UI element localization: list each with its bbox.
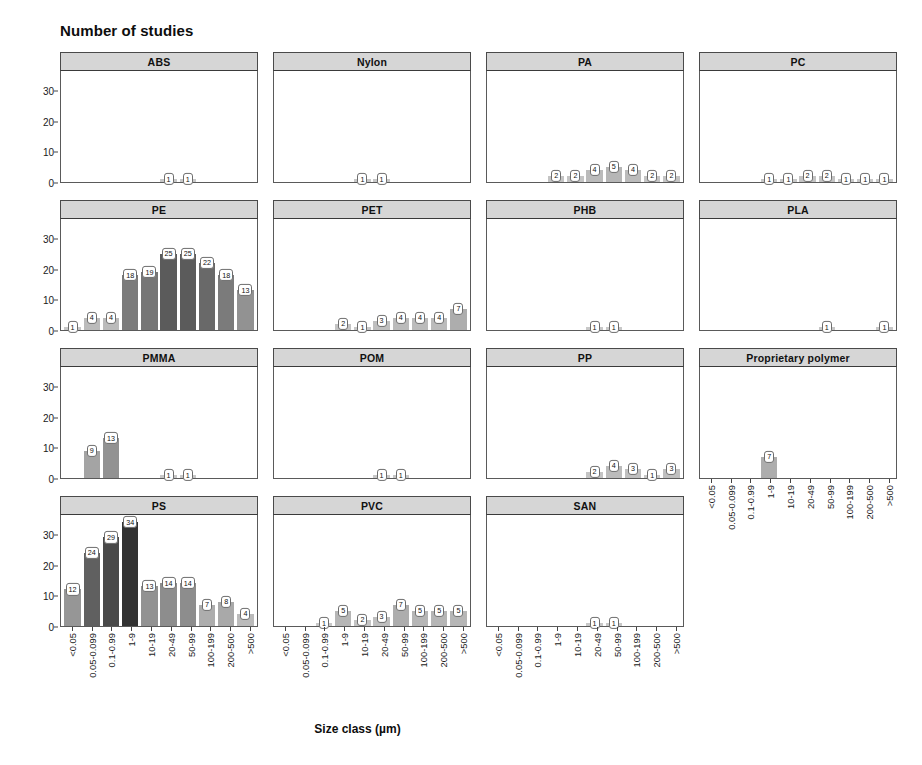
bar-slot (817, 367, 836, 478)
x-tick-mark (537, 627, 538, 631)
bar-value-label: 2 (357, 614, 367, 626)
bar: 2 (586, 472, 603, 478)
x-tick-label: 100-199 (205, 633, 216, 667)
y-axis: 0102030 (22, 71, 58, 183)
bar-slot: 4 (604, 367, 623, 478)
x-tick-mark (191, 627, 192, 631)
bar-series-pom: 11 (274, 367, 470, 478)
bar: 25 (180, 254, 197, 330)
x-tick-label: 1-9 (765, 485, 776, 499)
x-tick-label: 0.1-0.99 (745, 485, 756, 519)
bar-slot: 5 (430, 515, 449, 626)
bar-slot: 4 (430, 219, 449, 330)
bar-value-label: 1 (357, 173, 367, 185)
facet-pom: POM11 (273, 348, 471, 479)
x-tick-label: 100-199 (844, 485, 855, 519)
bar-slot (410, 367, 429, 478)
bar-slot: 7 (197, 515, 216, 626)
bar-slot (236, 71, 255, 182)
x-tick: 200-500 (433, 627, 453, 705)
facet-pc: PC1122111 (699, 52, 897, 183)
x-tick: 10-19 (141, 627, 161, 705)
y-tick-mark (54, 535, 58, 536)
bar: 1 (606, 327, 623, 330)
bar: 18 (122, 275, 139, 330)
x-tick-label: 0.05-0.099 (512, 633, 523, 678)
bar: 2 (335, 324, 352, 330)
bar: 1 (180, 475, 197, 478)
bar-slot: 2 (643, 71, 662, 182)
facet-label-phb: PHB (486, 200, 684, 219)
bar-slot: 1 (817, 219, 836, 330)
bar-slot (875, 367, 894, 478)
bar-slot: 1 (604, 219, 623, 330)
bar-slot (430, 367, 449, 478)
x-tick-label: 50-99 (398, 633, 409, 657)
x-tick: 1-9 (760, 479, 780, 557)
x-tick-label: 20-49 (378, 633, 389, 657)
bar-series-ps: 12242934131414784 (61, 515, 257, 626)
bar-value-label: 25 (181, 248, 195, 260)
bar: 4 (84, 318, 101, 330)
bar-value-label: 1 (860, 173, 870, 185)
facet-abs: ABS11 (60, 52, 258, 183)
x-tick-label: 50-99 (824, 485, 835, 509)
bar: 7 (761, 457, 778, 478)
x-tick-label: 10-19 (785, 485, 796, 509)
bar-slot (276, 367, 295, 478)
bar-slot (82, 71, 101, 182)
facet-label-pc: PC (699, 52, 897, 71)
bar-slot: 1 (372, 367, 391, 478)
x-tick-mark (597, 627, 598, 631)
bar-value-label: 5 (434, 605, 444, 617)
bar-series-pla: 11 (700, 219, 896, 330)
bar-value-label: 4 (240, 608, 250, 620)
x-axis: <0.050.05-0.0990.1-0.991-910-1920-4950-9… (273, 627, 475, 705)
bar-value-label: 5 (609, 161, 619, 173)
x-tick-mark (750, 479, 751, 483)
x-tick-label: >500 (458, 633, 469, 654)
bar-slot (527, 515, 546, 626)
x-tick-label: <0.05 (705, 485, 716, 509)
bar-value-label: 24 (85, 547, 99, 559)
y-tick-mark (54, 479, 58, 480)
bar-value-label: 1 (841, 173, 851, 185)
bar-series-nylon: 11 (274, 71, 470, 182)
bar-value-label: 2 (666, 170, 676, 182)
x-tick-label: 1-9 (552, 633, 563, 647)
bar-value-label: 1 (357, 321, 367, 333)
bar-value-label: 4 (609, 460, 619, 472)
bar: 5 (412, 611, 429, 626)
bar-value-label: 4 (415, 312, 425, 324)
y-tick-label: 30 (43, 234, 54, 245)
y-tick-label: 10 (43, 591, 54, 602)
plot-area-proprietary-polymer: 7 (699, 367, 897, 479)
y-tick-mark (54, 269, 58, 270)
bar-slot: 1 (585, 219, 604, 330)
plot-area-abs: 11 (60, 71, 258, 183)
plot-area-ps: 12242934131414784 (60, 515, 258, 627)
bar-slot (760, 219, 779, 330)
bar-value-label: 4 (87, 312, 97, 324)
x-tick-mark (131, 627, 132, 631)
x-tick-label: 1-9 (126, 633, 137, 647)
x-axis: <0.050.05-0.0990.1-0.991-910-1920-4950-9… (60, 627, 262, 705)
bar: 34 (122, 522, 139, 626)
bar-series-san: 11 (487, 515, 683, 626)
bar-value-label: 5 (338, 605, 348, 617)
y-tick-mark (54, 331, 58, 332)
x-tick: 50-99 (181, 627, 201, 705)
bar: 1 (373, 475, 390, 478)
plot-area-pe: 14418192525221813 (60, 219, 258, 331)
bar-slot (527, 367, 546, 478)
bar-value-label: 18 (123, 269, 137, 281)
bar-slot: 1 (643, 367, 662, 478)
x-tick: 10-19 (354, 627, 374, 705)
bar-slot (836, 219, 855, 330)
x-tick: 10-19 (567, 627, 587, 705)
bar-slot: 5 (410, 515, 429, 626)
bar: 18 (218, 275, 235, 330)
bar-value-label: 5 (415, 605, 425, 617)
bar-slot (353, 367, 372, 478)
bar: 4 (606, 466, 623, 478)
